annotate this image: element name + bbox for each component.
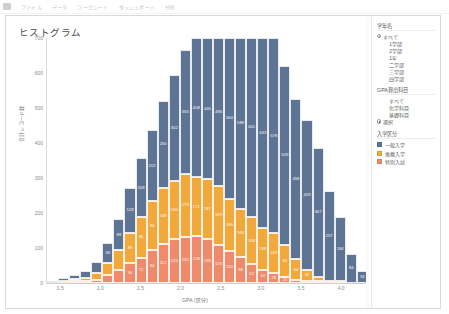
filter-option[interactable]: 選択 [377,118,436,124]
bar-segment-blue[interactable]: 168 [136,158,147,217]
table-row[interactable]: 2029494 [147,38,158,283]
radio-icon[interactable] [383,55,387,59]
table-row[interactable] [80,38,91,283]
bar-segment-salmon[interactable] [102,275,113,283]
bar-segment-salmon[interactable] [313,281,324,283]
legend-item[interactable]: 特別入試 [377,158,436,165]
bar-segment-gold[interactable]: 138 [257,228,268,270]
bar-segment-blue[interactable]: 88 [113,219,124,250]
table-row[interactable]: 184 [335,38,346,283]
filter-option[interactable]: 二学部 [377,61,436,67]
menu-bar[interactable]: ファイル データ ワークシート ダッシュボード 分析 [0,0,449,14]
bar-segment-gold[interactable]: 159 [158,188,169,244]
legend-item[interactable]: 推薦入学 [377,150,436,157]
radio-icon[interactable] [383,112,387,116]
bar-segment-salmon[interactable]: 132 [180,237,191,283]
bar-segment-gold[interactable]: 165 [235,209,246,257]
table-row[interactable]: 1689672 [136,38,147,283]
table-row[interactable] [69,38,80,283]
table-row[interactable]: 496199126 [213,38,224,283]
bar-segment-salmon[interactable]: 94 [147,250,158,283]
bar-segment-blue[interactable] [80,271,91,278]
bar-segment-gold[interactable] [324,281,335,283]
radio-icon[interactable] [383,48,387,52]
bar-segment-gold[interactable]: 94 [147,201,158,250]
bar-segment-gold[interactable]: 166 [169,181,180,239]
bar-segment-salmon[interactable]: 112 [158,244,169,283]
bar-segment-gold[interactable]: 179 [180,174,191,237]
bar-segment-gold[interactable]: 180 [224,199,235,251]
bar-segment-salmon[interactable]: 126 [213,245,224,283]
radio-icon[interactable] [383,41,387,45]
filter-option[interactable]: 化学科目 [377,104,436,110]
menu-item-file[interactable]: ファイル [21,3,42,10]
bar-segment-blue[interactable]: 633 [257,38,268,228]
bar-segment-blue[interactable]: 367 [313,148,324,276]
radio-icon[interactable] [383,62,387,66]
bar-segment-gold[interactable]: 60 [290,259,301,280]
bar-segment-salmon[interactable]: 110 [224,251,235,283]
bar-segment-gold[interactable]: 32 [301,270,312,281]
bar-segment-salmon[interactable]: 44 [257,270,268,283]
bar-segment-gold[interactable] [335,281,346,283]
radio-icon[interactable] [383,76,387,80]
bar-segment-salmon[interactable]: 139 [202,239,213,283]
table-row[interactable]: 408171138 [191,38,202,283]
filter-option[interactable]: 三学部 [377,68,436,74]
bar-segment-blue[interactable]: 560 [224,38,235,199]
filter-option[interactable]: 2学部 [377,47,436,53]
menu-item-dashboard[interactable]: ダッシュボード [119,3,155,10]
bar-segment-blue[interactable]: 458 [290,99,301,259]
filter-option[interactable]: 1学部 [377,40,436,46]
bar-segment-blue[interactable]: 257 [324,191,335,281]
bar-segment-salmon[interactable]: 138 [191,236,202,283]
table-row[interactable]: 367 [313,38,324,283]
filter-option[interactable]: 基礎科目 [377,111,436,117]
bar-segment-gold[interactable]: 171 [191,177,202,235]
bar-segment-blue[interactable]: 84 [346,254,357,283]
filter-option[interactable]: すべて [377,97,436,103]
bar-segment-gold[interactable] [113,250,124,270]
bar-segment-blue[interactable]: 302 [169,75,180,181]
bar-segment-blue[interactable] [91,262,102,273]
menu-item-data[interactable]: データ [52,3,68,10]
bar-segment-blue[interactable]: 496 [213,38,224,186]
table-row[interactable]: 42932 [301,38,312,283]
bar-segment-blue[interactable]: 601 [246,38,257,217]
bar-segment-salmon[interactable]: 72 [136,258,147,283]
table-row[interactable] [91,38,102,283]
bar-segment-salmon[interactable] [301,281,312,283]
table-row[interactable]: 257 [324,38,335,283]
bar-segment-blue[interactable]: 128 [124,188,135,233]
table-row[interactable]: 63313844 [257,38,268,283]
bar-segment-gold[interactable]: 94 [279,245,290,278]
bar-segment-salmon[interactable] [91,280,102,284]
bar-segment-gold[interactable]: 96 [136,217,147,258]
filter-option[interactable]: 四学部 [377,75,436,81]
menu-item-analysis[interactable]: 分析 [165,3,175,10]
table-row[interactable]: 58816588 [235,38,246,283]
bar-segment-salmon[interactable]: 28 [268,273,279,283]
bar-segment-salmon[interactable]: 88 [235,257,246,283]
radio-icon[interactable] [377,34,381,38]
bar-segment-salmon[interactable] [290,280,301,283]
table-row[interactable]: 5099416 [279,38,290,283]
bar-segment-blue[interactable]: 355 [180,50,191,174]
bar-segment-blue[interactable]: 202 [147,130,158,201]
table-row[interactable]: 302166126 [169,38,180,283]
bar-segment-blue[interactable]: 58 [102,243,113,263]
table-row[interactable] [58,38,69,283]
bar-segment-gold[interactable]: 187 [202,179,213,238]
table-row[interactable]: 1288856 [124,38,135,283]
bar-segment-blue[interactable]: 509 [279,66,290,244]
table-row[interactable]: 57811928 [268,38,279,283]
bar-segment-blue[interactable]: 250 [158,101,169,189]
bar-segment-gold[interactable] [58,281,69,283]
bar-segment-salmon[interactable]: 126 [169,239,180,283]
menu-item-worksheet[interactable]: ワークシート [77,3,108,10]
filter-option[interactable]: すべて [377,33,436,39]
bar-segment-salmon[interactable] [69,281,80,283]
bar-segment-blue[interactable]: 446 [202,38,213,179]
table-row[interactable] [47,38,58,283]
bar-segment-salmon[interactable]: 56 [124,263,135,283]
